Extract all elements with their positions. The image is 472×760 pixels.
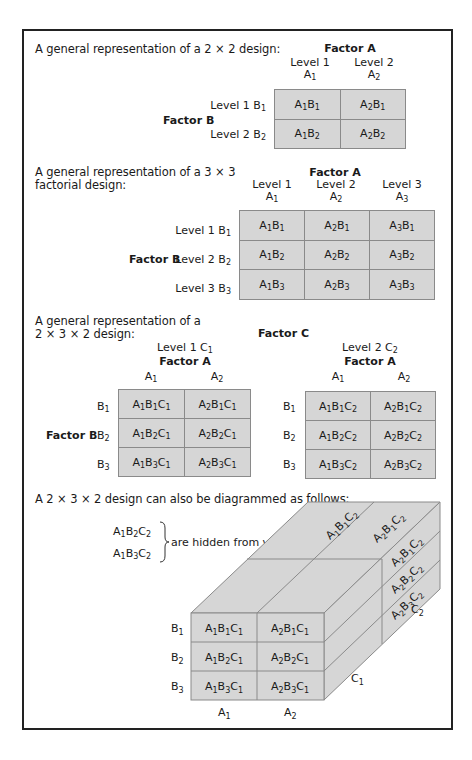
cell: A1B2C1 [205,651,243,666]
row-header-b2: B2 [171,651,184,666]
col-header-a1: A1 [218,706,231,721]
3d-box-diagram: A1B1C1 A2B1C1 A1B2C1 A2B2C1 A1B3C1 A2B3C… [0,0,472,760]
row-header-b3: B3 [171,680,184,695]
cell: A1B1C1 [205,622,243,637]
cell: A1B3C1 [205,680,243,695]
depth-label-c1: C1 [351,672,364,687]
cell: A2B1C1 [271,622,309,637]
row-header-b1: B1 [171,622,184,637]
col-header-a2: A2 [284,706,297,721]
cell: A2B2C1 [271,651,309,666]
cell: A2B3C1 [271,680,309,695]
